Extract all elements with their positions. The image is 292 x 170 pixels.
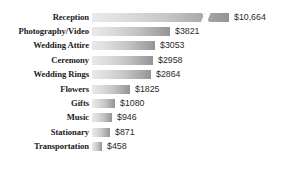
- bar-area: $946: [92, 111, 292, 125]
- value-label: $3821: [170, 27, 199, 36]
- bar: [92, 113, 112, 122]
- value-label: $2958: [153, 56, 182, 65]
- value-label: $1080: [115, 99, 144, 108]
- bar: [92, 41, 155, 50]
- bar: [92, 142, 102, 151]
- value-label: $458: [102, 142, 127, 151]
- bar: [92, 13, 229, 22]
- category-label: Photography/Video: [0, 27, 92, 36]
- value-label: $3053: [155, 41, 184, 50]
- category-label: Reception: [0, 13, 92, 22]
- category-label: Transportation: [0, 142, 92, 151]
- category-label: Ceremony: [0, 56, 92, 65]
- bar-row: Photography/Video$3821: [0, 24, 292, 38]
- bar: [92, 128, 110, 137]
- horizontal-bar-chart: Reception$10,664Photography/Video$3821We…: [0, 0, 292, 170]
- bar-area: $3821: [92, 24, 292, 38]
- value-label: $1825: [130, 85, 159, 94]
- value-label: $10,664: [229, 13, 266, 22]
- category-label: Gifts: [0, 99, 92, 108]
- bar-area: $2864: [92, 68, 292, 82]
- category-label: Wedding Attire: [0, 41, 92, 50]
- bar-row: Stationary$871: [0, 125, 292, 139]
- value-label: $871: [110, 128, 135, 137]
- bar: [92, 99, 115, 108]
- value-label: $2864: [151, 70, 180, 79]
- bar-area: $3053: [92, 39, 292, 53]
- bar: [92, 56, 153, 65]
- category-label: Wedding Rings: [0, 70, 92, 79]
- bar-row: Transportation$458: [0, 140, 292, 154]
- category-label: Music: [0, 113, 92, 122]
- category-label: Flowers: [0, 85, 92, 94]
- bar-area: $2958: [92, 53, 292, 67]
- bar-row: Flowers$1825: [0, 82, 292, 96]
- value-label: $946: [112, 113, 137, 122]
- bar-row: Reception$10,664: [0, 10, 292, 24]
- bar-row: Gifts$1080: [0, 96, 292, 110]
- bar-area: $10,664: [92, 10, 292, 24]
- bar-row: Wedding Rings$2864: [0, 68, 292, 82]
- bar-row: Ceremony$2958: [0, 53, 292, 67]
- bar-area: $1080: [92, 96, 292, 110]
- bar: [92, 27, 170, 36]
- bar: [92, 85, 130, 94]
- bar-area: $1825: [92, 82, 292, 96]
- bar-row: Wedding Attire$3053: [0, 39, 292, 53]
- axis-break-icon: [202, 12, 209, 23]
- bar: [92, 70, 151, 79]
- bar-area: $458: [92, 140, 292, 154]
- bar-area: $871: [92, 125, 292, 139]
- bar-row: Music$946: [0, 111, 292, 125]
- bar-rows: Reception$10,664Photography/Video$3821We…: [0, 10, 292, 154]
- category-label: Stationary: [0, 128, 92, 137]
